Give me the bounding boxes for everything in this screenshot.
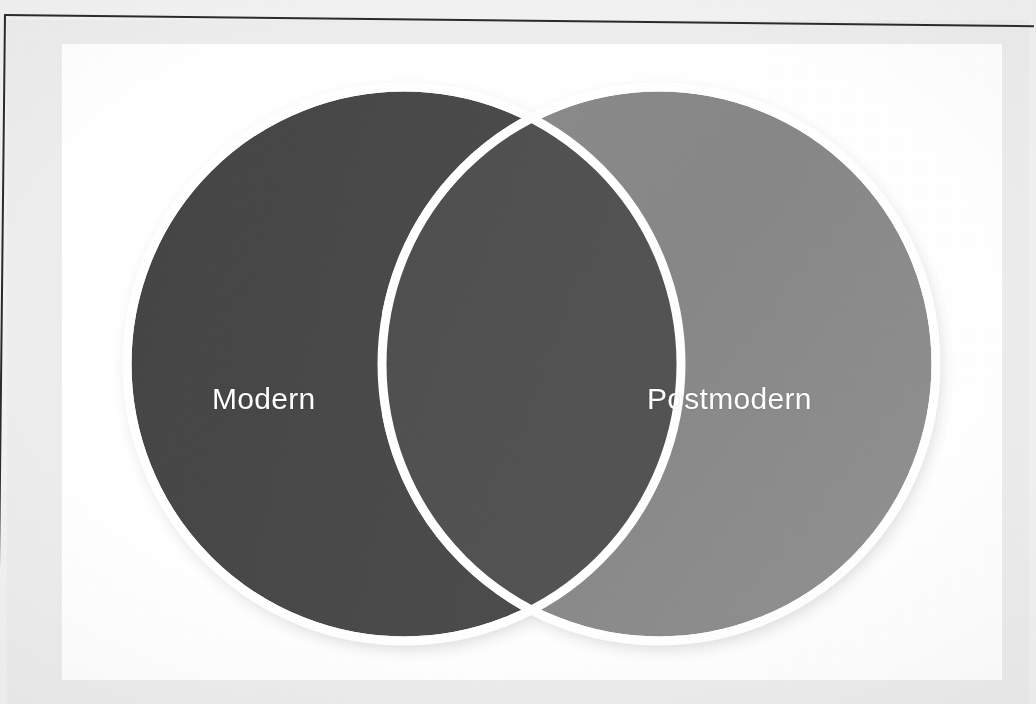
venn-label-postmodern: Postmodern [647,382,812,416]
venn-label-modern: Modern [212,382,316,416]
venn-diagram-svg [62,44,1002,680]
venn-diagram: Modern Postmodern [62,44,1002,680]
scanned-page: Modern Postmodern [0,0,1036,704]
